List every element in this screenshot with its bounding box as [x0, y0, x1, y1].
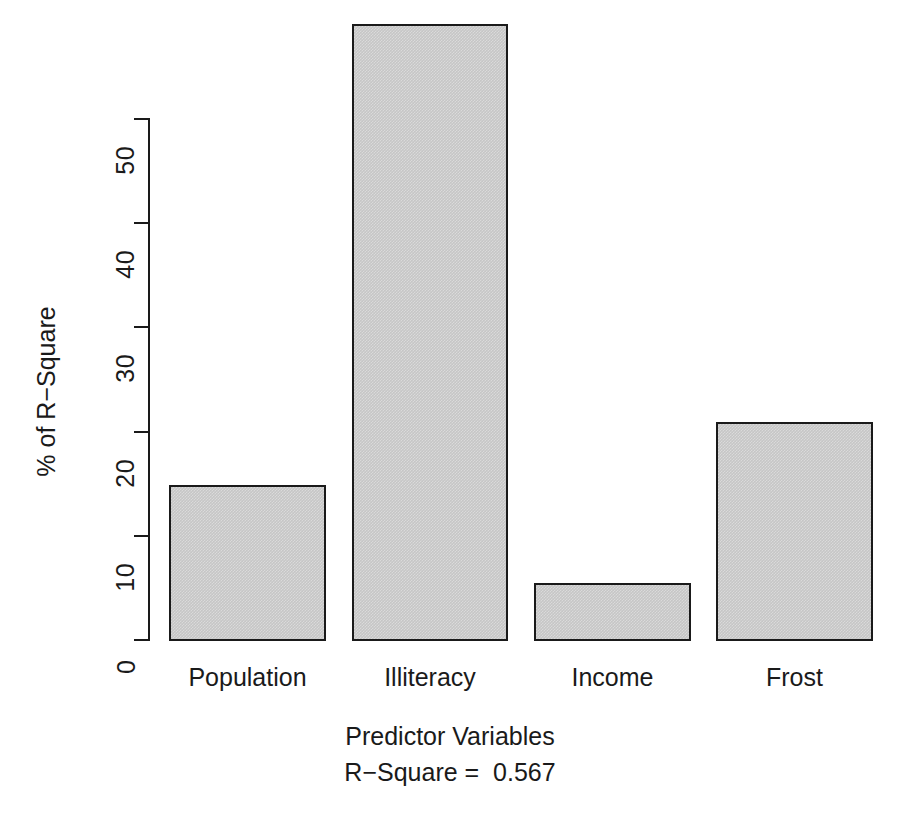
y-axis-tick-10 [134, 535, 149, 537]
y-axis-title: % of R−Square [34, 242, 59, 542]
x-axis-label-illiteracy: Illiteracy [352, 665, 508, 690]
y-axis-tick-50 [134, 118, 149, 120]
chart-figure: 0 10 20 30 40 50 % of R−Square Populati [0, 0, 900, 823]
y-axis-tick-label-30: 30 [114, 354, 139, 383]
bar-frost[interactable] [716, 422, 873, 641]
plot-region: 0 10 20 30 40 50 % of R−Square Populati [0, 0, 900, 823]
x-axis-title: Predictor Variables [0, 724, 900, 749]
y-axis-tick-40 [134, 222, 149, 224]
y-axis-tick-30 [134, 326, 149, 328]
y-axis-tick-label-10: 10 [114, 563, 139, 592]
x-axis-label-frost: Frost [716, 665, 873, 690]
bar-population[interactable] [169, 485, 326, 641]
y-axis-line [148, 118, 150, 641]
x-axis-label-population: Population [169, 665, 326, 690]
r-square-caption: R−Square = 0.567 [0, 760, 900, 785]
x-axis-label-income: Income [534, 665, 691, 690]
y-axis-tick-label-0: 0 [114, 660, 139, 674]
y-axis-tick-label-20: 20 [114, 459, 139, 488]
y-axis-tick-20 [134, 431, 149, 433]
y-axis-tick-label-50: 50 [114, 146, 139, 175]
bar-income[interactable] [534, 583, 691, 641]
y-axis-tick-0 [134, 639, 149, 641]
y-axis-tick-label-40: 40 [114, 250, 139, 279]
bar-illiteracy[interactable] [352, 24, 508, 641]
